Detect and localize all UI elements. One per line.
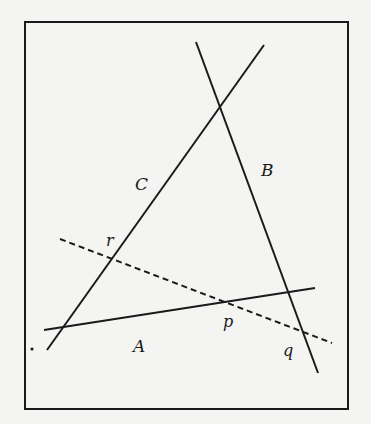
stray-dot xyxy=(30,347,33,350)
label-point-p: p xyxy=(223,312,233,331)
label-point-r: r xyxy=(106,231,115,250)
label-line-a: A xyxy=(131,336,145,356)
line-b xyxy=(196,42,318,373)
frame-box xyxy=(25,22,348,409)
label-point-q: q xyxy=(283,341,293,360)
label-line-c: C xyxy=(135,174,148,194)
diagram-canvas: A B C p q r xyxy=(0,0,371,424)
line-a xyxy=(44,288,315,330)
label-line-b: B xyxy=(260,160,274,180)
